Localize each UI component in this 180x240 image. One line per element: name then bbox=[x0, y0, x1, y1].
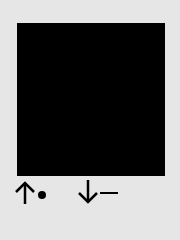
up-arrow-icon[interactable] bbox=[14, 181, 36, 204]
black-square bbox=[17, 23, 165, 176]
dot-icon bbox=[38, 191, 46, 199]
down-arrow-icon[interactable] bbox=[77, 180, 99, 204]
dash-icon bbox=[100, 192, 118, 194]
